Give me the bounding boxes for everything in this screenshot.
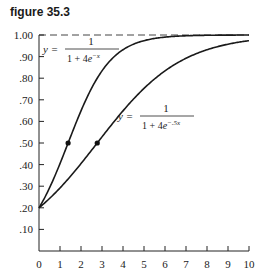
x-tick-label: 9 <box>225 258 231 270</box>
formula-label-series-2: y =11 + 4e−.5x <box>117 102 194 131</box>
x-tick-label: 6 <box>162 258 168 270</box>
x-tick-label: 0 <box>36 258 42 270</box>
y-tick-label: .20 <box>19 202 33 214</box>
svg-text:1 + 4e−.5x: 1 + 4e−.5x <box>142 119 181 131</box>
logistic-curves-chart: 012345678910.10.20.30.40.50.60.70.80.901… <box>0 0 267 276</box>
y-tick-label: .50 <box>19 137 33 149</box>
x-tick-label: 7 <box>183 258 189 270</box>
svg-text:1: 1 <box>163 102 169 114</box>
x-tick-label: 8 <box>204 258 210 270</box>
formula-labels: y =11 + 4e−xy =11 + 4e−.5x <box>42 35 194 131</box>
y-tick-label: .30 <box>19 180 33 192</box>
x-tick-label: 3 <box>99 258 105 270</box>
y-tick-label: .90 <box>19 51 33 63</box>
y-tick-label: .10 <box>19 223 33 235</box>
svg-text:y =: y = <box>117 110 133 122</box>
svg-text:y =: y = <box>42 43 58 55</box>
x-tick-label: 2 <box>78 258 84 270</box>
svg-text:1: 1 <box>88 35 94 47</box>
y-tick-label: .60 <box>19 115 33 127</box>
x-tick-label: 1 <box>57 258 63 270</box>
y-tick-label: .80 <box>19 72 33 84</box>
midpoint-marker <box>95 140 100 145</box>
x-tick-label: 5 <box>141 258 147 270</box>
x-tick-label: 4 <box>120 258 126 270</box>
axes: 012345678910.10.20.30.40.50.60.70.80.901… <box>14 29 255 270</box>
y-tick-label: .40 <box>19 159 33 171</box>
formula-label-series-1: y =11 + 4e−x <box>42 35 119 64</box>
y-tick-label: 1.00 <box>14 29 34 41</box>
x-tick-label: 10 <box>244 258 256 270</box>
svg-text:1 + 4e−x: 1 + 4e−x <box>67 52 101 64</box>
y-tick-label: .70 <box>19 94 33 106</box>
midpoint-marker <box>66 140 71 145</box>
